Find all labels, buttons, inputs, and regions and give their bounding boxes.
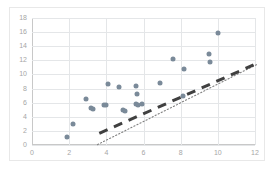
y-tick-label: 18 (13, 14, 27, 22)
data-point (91, 107, 96, 112)
y-tick-label: 0 (13, 141, 27, 149)
y-tick-label: 16 (13, 28, 27, 36)
data-point (134, 84, 139, 89)
data-point (70, 121, 75, 126)
data-point (134, 92, 139, 97)
y-tick-label: 8 (13, 85, 27, 93)
x-tick-label: 2 (62, 149, 76, 157)
gridline-vertical (255, 18, 256, 145)
trendline-dotted (97, 64, 257, 144)
x-tick-label: 12 (248, 149, 262, 157)
data-point (206, 51, 211, 56)
gridline-vertical (181, 18, 182, 145)
x-tick-label: 0 (25, 149, 39, 157)
y-tick-label: 14 (13, 42, 27, 50)
gridline-horizontal (32, 145, 255, 146)
data-point (182, 66, 187, 71)
y-tick-label: 4 (13, 113, 27, 121)
gridline-vertical (218, 18, 219, 145)
data-point (208, 59, 213, 64)
y-tick-label: 2 (13, 127, 27, 135)
x-tick-label: 8 (174, 149, 188, 157)
x-tick-label: 6 (137, 149, 151, 157)
data-point (65, 134, 70, 139)
scatter-chart: 024681012141618 024681012 (0, 0, 276, 169)
y-tick-label: 10 (13, 70, 27, 78)
data-point (171, 56, 176, 61)
data-point (83, 97, 88, 102)
data-point (104, 103, 109, 108)
x-tick-label: 10 (211, 149, 225, 157)
data-point (215, 30, 220, 35)
data-point (180, 94, 185, 99)
x-tick-label: 4 (99, 149, 113, 157)
gridline-vertical (69, 18, 70, 145)
data-point (117, 85, 122, 90)
data-point (106, 81, 111, 86)
data-point (158, 80, 163, 85)
data-point (122, 109, 127, 114)
trendline-layer (64, 36, 276, 163)
gridline-vertical (144, 18, 145, 145)
plot-area (32, 18, 255, 145)
data-point (139, 102, 144, 107)
y-tick-label: 6 (13, 99, 27, 107)
y-tick-label: 12 (13, 56, 27, 64)
